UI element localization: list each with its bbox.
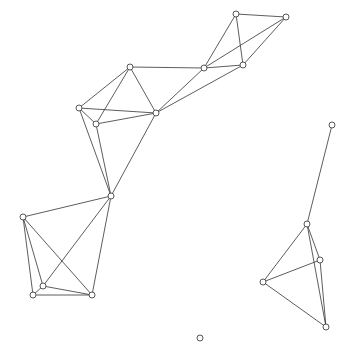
node-J (20, 214, 26, 220)
edge-A-C (204, 14, 236, 68)
node-L (30, 292, 36, 298)
edge-E-G (96, 67, 130, 124)
node-I (108, 193, 114, 199)
network-graph (0, 0, 348, 355)
edge-K-M (43, 286, 92, 295)
node-P (317, 257, 323, 263)
graph-edges (23, 14, 332, 327)
node-C (201, 65, 207, 71)
edge-E-C (130, 67, 204, 68)
edge-F-H (79, 108, 156, 113)
node-G (93, 121, 99, 127)
node-B (283, 14, 289, 20)
node-F (76, 105, 82, 111)
node-K (40, 283, 46, 289)
graph-nodes (20, 11, 335, 341)
node-H (153, 110, 159, 116)
node-D (240, 62, 246, 68)
edge-P-R (320, 260, 326, 327)
edge-N-O (307, 125, 332, 224)
edge-G-H (96, 113, 156, 124)
node-A (233, 11, 239, 17)
edge-J-K (23, 217, 43, 286)
edge-E-F (79, 67, 130, 108)
edge-C-D (204, 65, 243, 68)
edge-H-I (111, 113, 156, 196)
edge-I-M (92, 196, 111, 295)
edge-B-C (204, 17, 286, 68)
node-M (89, 292, 95, 298)
edge-Q-R (263, 282, 326, 327)
edge-B-D (243, 17, 286, 65)
node-Q (260, 279, 266, 285)
edge-A-B (236, 14, 286, 17)
edge-O-R (307, 224, 326, 327)
node-E (127, 64, 133, 70)
edge-E-H (130, 67, 156, 113)
edge-J-L (23, 217, 33, 295)
node-R (323, 324, 329, 330)
node-N (329, 122, 335, 128)
edge-A-D (236, 14, 243, 65)
edge-J-M (23, 217, 92, 295)
edge-O-P (307, 224, 320, 260)
node-S (197, 335, 203, 341)
node-O (304, 221, 310, 227)
